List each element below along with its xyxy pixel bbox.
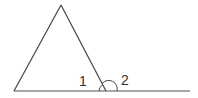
angle-2-label: 2: [121, 72, 129, 88]
triangle-diagram: 1 2: [0, 0, 198, 98]
angle-1-label: 1: [79, 73, 87, 89]
triangle-left-side: [14, 5, 61, 91]
angle-1-arc: [99, 85, 103, 91]
